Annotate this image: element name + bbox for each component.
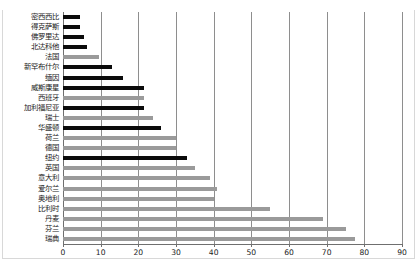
bar-row	[63, 156, 402, 160]
category-label: 新罕布什尔	[24, 63, 59, 71]
category-label: 得克萨斯	[31, 23, 59, 31]
category-label: 北达科他	[31, 43, 59, 51]
tick-label-80: 80	[359, 248, 369, 257]
bar	[63, 25, 80, 29]
gridline-90	[402, 12, 403, 244]
bar-row	[63, 35, 402, 39]
bar	[63, 176, 210, 180]
category-label: 芬兰	[45, 225, 59, 233]
bar-row	[63, 116, 402, 120]
bar-row	[63, 227, 402, 231]
bar-row	[63, 197, 402, 201]
category-label: 比利时	[38, 205, 59, 213]
bar-row	[63, 45, 402, 49]
bar	[63, 116, 153, 120]
tick-mark-30	[176, 244, 177, 247]
bar-chart: 密西西比得克萨斯佛罗里达北达科他法国新罕布什尔缅因威斯康星西班牙加利福尼亚瑞士华…	[0, 0, 419, 279]
bar	[63, 55, 99, 59]
bar	[63, 207, 270, 211]
bar-row	[63, 176, 402, 180]
category-label: 加利福尼亚	[24, 104, 59, 112]
bar	[63, 217, 323, 221]
tick-mark-50	[251, 244, 252, 247]
bar-row	[63, 96, 402, 100]
chart-title	[0, 0, 419, 9]
bar	[63, 197, 214, 201]
bar-row	[63, 76, 402, 80]
category-label: 威斯康星	[31, 84, 59, 92]
tick-label-0: 0	[61, 248, 66, 257]
bar	[63, 136, 176, 140]
tick-mark-10	[101, 244, 102, 247]
category-label: 英国	[45, 164, 59, 172]
plot-area	[63, 12, 402, 244]
category-label: 荷兰	[45, 134, 59, 142]
tick-label-50: 50	[246, 248, 256, 257]
tick-mark-90	[402, 244, 403, 247]
bar-row	[63, 217, 402, 221]
figure-frame-right	[414, 10, 415, 258]
tick-mark-20	[138, 244, 139, 247]
category-label: 瑞典	[45, 235, 59, 243]
bar	[63, 227, 346, 231]
bar	[63, 15, 80, 19]
bar	[63, 96, 144, 100]
bar-row	[63, 166, 402, 170]
bar	[63, 86, 144, 90]
tick-label-30: 30	[171, 248, 181, 257]
bar	[63, 156, 187, 160]
tick-mark-70	[327, 244, 328, 247]
bar	[63, 166, 195, 170]
category-label: 纽约	[45, 154, 59, 162]
tick-label-90: 90	[397, 248, 407, 257]
category-label: 瑞士	[45, 114, 59, 122]
bar-row	[63, 207, 402, 211]
bar	[63, 76, 123, 80]
bar-row	[63, 25, 402, 29]
bar-row	[63, 55, 402, 59]
category-label: 法国	[45, 53, 59, 61]
tick-mark-60	[289, 244, 290, 247]
figure-frame-bottom	[2, 258, 415, 259]
tick-label-70: 70	[322, 248, 332, 257]
category-label: 密西西比	[31, 13, 59, 21]
category-label: 奥地利	[38, 195, 59, 203]
tick-label-60: 60	[284, 248, 294, 257]
category-label: 爱尔兰	[38, 185, 59, 193]
bar-row	[63, 106, 402, 110]
category-label: 华盛顿	[38, 124, 59, 132]
category-label: 德国	[45, 144, 59, 152]
bar	[63, 65, 112, 69]
tick-label-10: 10	[96, 248, 106, 257]
category-label: 意大利	[38, 174, 59, 182]
bar	[63, 45, 87, 49]
category-label: 丹麦	[45, 215, 59, 223]
bar-row	[63, 146, 402, 150]
category-axis-labels: 密西西比得克萨斯佛罗里达北达科他法国新罕布什尔缅因威斯康星西班牙加利福尼亚瑞士华…	[0, 12, 61, 244]
bar	[63, 106, 144, 110]
value-axis: 0102030405060708090	[63, 244, 402, 258]
bar-row	[63, 86, 402, 90]
bar	[63, 187, 217, 191]
value-axis-line	[63, 244, 402, 245]
bar-row	[63, 65, 402, 69]
bar-row	[63, 15, 402, 19]
tick-mark-0	[63, 244, 64, 247]
tick-mark-40	[214, 244, 215, 247]
tick-label-40: 40	[209, 248, 219, 257]
bar	[63, 126, 161, 130]
category-label: 西班牙	[38, 94, 59, 102]
category-label: 缅因	[45, 74, 59, 82]
tick-mark-80	[364, 244, 365, 247]
bar	[63, 237, 355, 241]
bar-row	[63, 187, 402, 191]
bar-row	[63, 237, 402, 241]
tick-label-20: 20	[133, 248, 143, 257]
bar	[63, 35, 84, 39]
category-label: 佛罗里达	[31, 33, 59, 41]
bar-row	[63, 126, 402, 130]
bar	[63, 146, 176, 150]
bar-row	[63, 136, 402, 140]
bar-series	[63, 12, 402, 244]
